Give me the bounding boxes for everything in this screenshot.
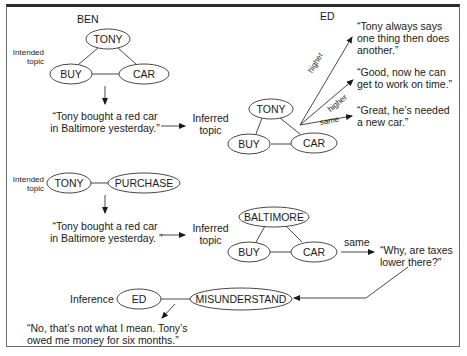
- ed-node-buy: BUY: [238, 138, 260, 150]
- inference-label: Inference: [70, 293, 114, 305]
- inferred-topic-label: Inferred topic: [188, 112, 233, 136]
- node-car-2: CAR: [303, 246, 325, 258]
- inferred-topic-label-2: Inferred topic: [188, 222, 233, 246]
- node-ed: ED: [132, 293, 147, 305]
- utterance-text-2: “Tony bought a red car in Baltimore yest…: [50, 220, 160, 244]
- response-2: “Good, now he can get to work on time.”: [357, 66, 452, 90]
- speaker-ed-label: ED: [320, 10, 335, 22]
- response-taxes: “Why, are taxes lower there?”: [380, 244, 453, 268]
- speaker-ben-label: BEN: [77, 13, 99, 25]
- response-3: “Great, he’s needed a new car.”: [357, 104, 450, 128]
- utterance-text: “Tony bought a red car in Baltimore yest…: [50, 110, 160, 134]
- node-car: CAR: [133, 68, 155, 80]
- relation-same-2: same: [344, 236, 370, 248]
- reply-text: “No, that’s not what I mean. Tony’s owed…: [27, 322, 188, 346]
- intended-topic-label-2: Intended topic: [8, 175, 44, 193]
- node-tony-2: TONY: [55, 177, 84, 189]
- node-buy: BUY: [60, 68, 82, 80]
- node-baltimore: BALTIMORE: [244, 211, 304, 223]
- ed-node-car: CAR: [303, 137, 325, 149]
- node-buy-2: BUY: [238, 246, 260, 258]
- ed-node-tony: TONY: [257, 103, 286, 115]
- node-misunderstand: MISUNDERSTAND: [196, 293, 287, 305]
- node-tony: TONY: [94, 33, 123, 45]
- response-1: “Tony always says one thing then does an…: [357, 20, 449, 56]
- intended-topic-label: Intended topic: [8, 48, 44, 66]
- node-purchase: PURCHASE: [115, 177, 173, 189]
